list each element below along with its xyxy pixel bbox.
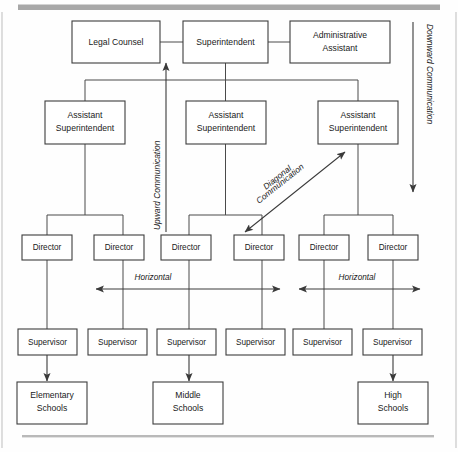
- node-assistant-superintendent-3-label-line1: Assistant: [341, 110, 376, 120]
- node-high-schools-label-line2: Schools: [378, 403, 409, 413]
- node-supervisor-5[interactable]: Supervisor: [293, 329, 352, 355]
- node-administrative-assistant-label-line2: Assistant: [323, 43, 358, 53]
- node-director-5-label: Director: [310, 243, 339, 252]
- node-director-5[interactable]: Director: [299, 235, 349, 260]
- organizational-chart-diagram: Downward Communication Upward Communicat…: [0, 0, 458, 452]
- node-supervisor-2[interactable]: Supervisor: [88, 329, 147, 355]
- node-elementary-schools[interactable]: Elementary Schools: [17, 382, 87, 424]
- node-director-1[interactable]: Director: [22, 235, 72, 260]
- node-assistant-superintendent-2-label-line2: Superintendent: [197, 123, 256, 133]
- node-high-schools[interactable]: High Schools: [358, 382, 428, 424]
- node-director-4-label: Director: [245, 243, 274, 252]
- horizontal-communication-label-left: Horizontal: [135, 273, 172, 282]
- node-director-6-label: Director: [379, 243, 408, 252]
- node-administrative-assistant-label-line1: Administrative: [313, 30, 367, 40]
- node-assistant-superintendent-1-label-line1: Assistant: [68, 110, 103, 120]
- node-supervisor-5-label: Supervisor: [303, 338, 342, 347]
- node-assistant-superintendent-3-label-line2: Superintendent: [329, 123, 388, 133]
- node-supervisor-1-label: Supervisor: [28, 338, 67, 347]
- downward-communication-label: Downward Communication: [425, 24, 435, 124]
- node-legal-counsel-label: Legal Counsel: [89, 37, 144, 47]
- node-supervisor-3-label: Supervisor: [167, 338, 206, 347]
- node-supervisor-4[interactable]: Supervisor: [226, 329, 285, 355]
- bottom-rule-bar: [22, 435, 434, 437]
- organizational-chart-page: Downward Communication Upward Communicat…: [0, 0, 458, 452]
- node-assistant-superintendent-3[interactable]: Assistant Superintendent: [318, 101, 398, 144]
- node-director-4[interactable]: Director: [234, 235, 284, 260]
- node-director-3-label: Director: [172, 243, 201, 252]
- node-assistant-superintendent-2[interactable]: Assistant Superintendent: [186, 101, 266, 144]
- top-rule-bar: [18, 5, 440, 11]
- node-director-2[interactable]: Director: [94, 235, 144, 260]
- node-middle-schools-label-line1: Middle: [175, 390, 201, 400]
- node-middle-schools-label-line2: Schools: [173, 403, 204, 413]
- node-superintendent[interactable]: Superintendent: [183, 21, 268, 63]
- node-supervisor-6-label: Supervisor: [373, 338, 412, 347]
- node-elementary-schools-label-line2: Schools: [37, 403, 68, 413]
- node-supervisor-3[interactable]: Supervisor: [157, 329, 216, 355]
- node-supervisor-6[interactable]: Supervisor: [363, 329, 422, 355]
- node-supervisor-1[interactable]: Supervisor: [18, 329, 77, 355]
- node-director-2-label: Director: [105, 243, 134, 252]
- horizontal-communication-label-right: Horizontal: [339, 273, 376, 282]
- node-elementary-schools-label-line1: Elementary: [30, 390, 74, 400]
- node-middle-schools[interactable]: Middle Schools: [153, 382, 223, 424]
- node-director-1-label: Director: [33, 243, 62, 252]
- node-director-6[interactable]: Director: [368, 235, 418, 260]
- node-assistant-superintendent-1-label-line2: Superintendent: [56, 123, 115, 133]
- node-legal-counsel[interactable]: Legal Counsel: [72, 21, 160, 63]
- node-assistant-superintendent-2-label-line1: Assistant: [209, 110, 244, 120]
- upward-communication-label: Upward Communication: [152, 140, 162, 230]
- node-high-schools-label-line1: High: [384, 390, 402, 400]
- node-supervisor-2-label: Supervisor: [98, 338, 137, 347]
- node-supervisor-4-label: Supervisor: [236, 338, 275, 347]
- node-superintendent-label: Superintendent: [196, 37, 255, 47]
- node-director-3[interactable]: Director: [161, 235, 211, 260]
- node-administrative-assistant[interactable]: Administrative Assistant: [290, 21, 390, 63]
- node-assistant-superintendent-1[interactable]: Assistant Superintendent: [45, 101, 125, 144]
